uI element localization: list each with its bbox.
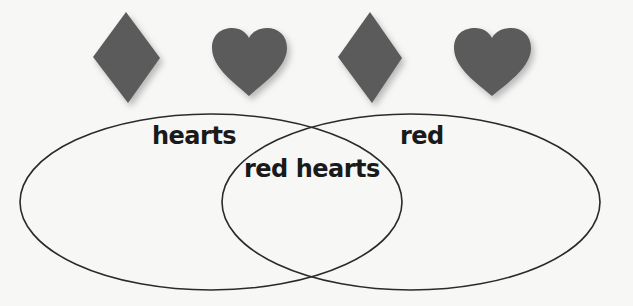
venn-diagram	[0, 0, 633, 306]
heart-icon	[212, 28, 287, 96]
set-label-red: red	[400, 124, 444, 148]
diamond-icon	[93, 12, 160, 103]
heart-icon	[454, 28, 531, 96]
diamond-icon	[338, 12, 402, 103]
set-label-hearts: hearts	[152, 124, 236, 148]
intersection-label: red hearts	[244, 157, 380, 181]
